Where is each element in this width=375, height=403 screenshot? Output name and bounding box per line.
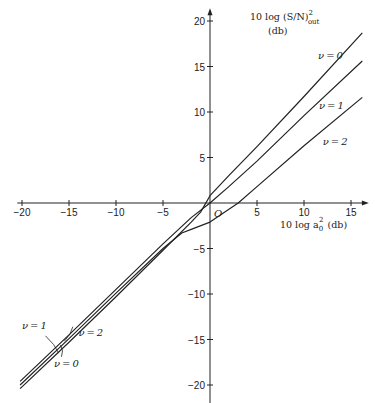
x-tick-label: −10 bbox=[108, 207, 125, 218]
x-axis-arrow-icon bbox=[362, 201, 369, 206]
y-axis-unit: (db) bbox=[268, 25, 288, 36]
y-tick-label: 15 bbox=[194, 62, 206, 73]
y-tick-label: −20 bbox=[188, 380, 205, 391]
chart-container: −20−15−10−5510152015105−5−10−15−20 ν = 0… bbox=[0, 0, 375, 403]
y-tick-label: 20 bbox=[194, 16, 206, 27]
line-chart: −20−15−10−5510152015105−5−10−15−20 ν = 0… bbox=[0, 0, 375, 403]
x-axis-title: 10 log a02(db) bbox=[280, 216, 347, 233]
y-axis-arrow-icon bbox=[208, 8, 213, 15]
curve-label: ν = 2 bbox=[78, 327, 103, 338]
y-tick-label: 5 bbox=[199, 153, 205, 164]
x-tick-label: −15 bbox=[61, 207, 78, 218]
y-axis-title: 10 log (S/N)2out bbox=[250, 9, 320, 26]
curve-label: ν = 1 bbox=[319, 100, 344, 111]
x-tick-label: −20 bbox=[14, 207, 31, 218]
y-tick-label: −10 bbox=[188, 289, 205, 300]
curve-label: ν = 1 bbox=[22, 320, 47, 331]
x-tick-label: 15 bbox=[345, 207, 357, 218]
y-tick-label: −15 bbox=[188, 335, 205, 346]
curve-label: ν = 2 bbox=[323, 136, 348, 147]
y-tick-label: 10 bbox=[194, 107, 206, 118]
origin-label: O bbox=[214, 208, 222, 219]
x-tick-label: 5 bbox=[254, 207, 260, 218]
x-tick-label: 10 bbox=[298, 207, 310, 218]
x-tick-label: −5 bbox=[157, 207, 169, 218]
curve-label: ν = 0 bbox=[54, 358, 79, 369]
curve-label: ν = 0 bbox=[318, 50, 343, 61]
y-tick-label: −5 bbox=[194, 244, 206, 255]
